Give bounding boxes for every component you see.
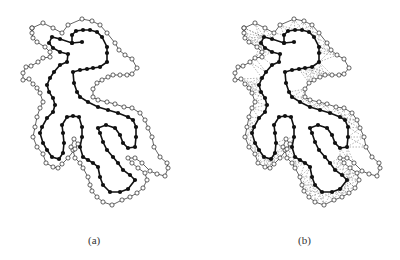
hollow-node bbox=[78, 161, 82, 165]
hollow-node bbox=[72, 137, 76, 141]
hollow-node bbox=[347, 191, 351, 195]
filled-node bbox=[51, 46, 55, 50]
filled-node bbox=[250, 131, 254, 135]
hollow-node bbox=[284, 137, 288, 141]
hollow-node bbox=[242, 26, 246, 30]
hollow-node bbox=[335, 53, 339, 57]
filled-node bbox=[338, 187, 342, 191]
hollow-node bbox=[293, 166, 297, 170]
hollow-node bbox=[123, 53, 127, 57]
filled-node bbox=[58, 37, 62, 41]
hollow-node bbox=[130, 106, 134, 110]
hollow-node bbox=[362, 135, 366, 139]
filled-node bbox=[257, 116, 261, 120]
filled-node bbox=[340, 173, 344, 177]
hollow-node bbox=[250, 106, 254, 110]
filled-node bbox=[289, 115, 293, 119]
hollow-node bbox=[35, 145, 39, 149]
filled-node bbox=[290, 68, 294, 72]
filled-node bbox=[317, 60, 321, 64]
hollow-node bbox=[317, 31, 321, 35]
hollow-node bbox=[233, 71, 237, 75]
hollow-node bbox=[278, 156, 282, 160]
hollow-node bbox=[41, 152, 45, 156]
filled-node bbox=[106, 108, 110, 112]
hollow-node bbox=[250, 91, 254, 95]
hollow-node bbox=[140, 161, 144, 165]
hollow-node bbox=[290, 161, 294, 165]
filled-node bbox=[293, 155, 297, 159]
hollow-node bbox=[100, 78, 104, 82]
filled-node bbox=[133, 145, 137, 149]
filled-node bbox=[48, 76, 52, 80]
hollow-node bbox=[138, 111, 142, 115]
hollow-node bbox=[325, 41, 329, 45]
hollow-node bbox=[51, 26, 55, 30]
filled-node bbox=[253, 141, 257, 145]
hollow-node bbox=[135, 191, 139, 195]
hollow-node bbox=[260, 55, 264, 59]
hollow-node bbox=[255, 45, 259, 49]
filled-node bbox=[257, 83, 261, 87]
hollow-node bbox=[148, 169, 152, 173]
hollow-node bbox=[247, 145, 251, 149]
hollow-node bbox=[146, 126, 150, 130]
hollow-node bbox=[307, 195, 311, 199]
hollow-node bbox=[239, 77, 243, 81]
filled-node bbox=[104, 123, 108, 127]
hollow-node bbox=[27, 77, 31, 81]
hollow-node bbox=[253, 152, 257, 156]
hollow-node bbox=[141, 186, 145, 190]
filled-node bbox=[91, 66, 95, 70]
hollow-node bbox=[352, 161, 356, 165]
filled-node bbox=[313, 140, 317, 144]
hollow-node bbox=[300, 183, 304, 187]
hollow-node bbox=[247, 86, 251, 90]
filled-node bbox=[66, 52, 70, 56]
hollow-node bbox=[33, 125, 37, 129]
hollow-node bbox=[35, 86, 39, 90]
filled-node bbox=[346, 135, 350, 139]
hollow-node bbox=[110, 203, 114, 207]
hollow-node bbox=[281, 145, 285, 149]
filled-node bbox=[81, 28, 85, 32]
filled-node bbox=[252, 125, 256, 129]
hollow-node bbox=[120, 198, 124, 202]
hollow-node bbox=[150, 135, 154, 139]
filled-node bbox=[283, 114, 287, 118]
filled-node bbox=[45, 148, 49, 152]
hollow-node bbox=[165, 161, 169, 165]
hollow-node bbox=[91, 95, 95, 99]
hollow-node bbox=[242, 31, 246, 35]
hollow-node bbox=[263, 26, 267, 30]
hollow-node bbox=[330, 73, 334, 77]
hollow-node bbox=[345, 156, 349, 160]
filled-node bbox=[131, 118, 135, 122]
hollow-node bbox=[73, 156, 77, 160]
hollow-node bbox=[245, 125, 249, 129]
filled-node bbox=[290, 95, 294, 99]
hollow-node bbox=[278, 23, 282, 27]
filled-node bbox=[338, 115, 342, 119]
filled-node bbox=[298, 158, 302, 162]
hollow-node bbox=[292, 17, 296, 21]
filled-node bbox=[61, 131, 65, 135]
filled-node bbox=[98, 175, 102, 179]
hollow-node bbox=[38, 106, 42, 110]
filled-node bbox=[317, 148, 321, 152]
filled-node bbox=[45, 83, 49, 87]
filled-node bbox=[96, 105, 100, 109]
hollow-node bbox=[105, 31, 109, 35]
filled-node bbox=[91, 161, 95, 165]
hollow-node bbox=[41, 56, 45, 60]
filled-node bbox=[101, 140, 105, 144]
filled-node bbox=[133, 178, 137, 182]
filled-node bbox=[325, 126, 329, 130]
hollow-node bbox=[342, 57, 346, 61]
hollow-node bbox=[166, 166, 170, 170]
hollow-node bbox=[285, 156, 289, 160]
hollow-node bbox=[117, 48, 121, 52]
hollow-node bbox=[43, 45, 47, 49]
hollow-node bbox=[31, 135, 35, 139]
filled-node bbox=[80, 40, 84, 44]
